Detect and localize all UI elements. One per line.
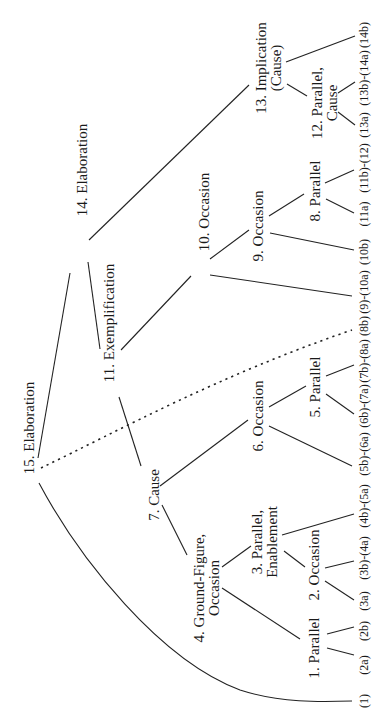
node-13-implication-cause: 13. Implication (Cause) <box>253 22 285 114</box>
leaf-2b: (2b) <box>357 621 371 641</box>
svg-text:(Cause): (Cause) <box>268 45 285 92</box>
edge-2-leaf-3a <box>325 581 354 600</box>
discourse-tree-diagram: 15. Elaboration 14. Elaboration 11. Exem… <box>0 0 391 718</box>
leaf-7b-8a: (7b)-(8a) <box>357 339 371 382</box>
edge-9-8 <box>269 194 304 216</box>
edge-5-leaf-7b-8a <box>326 365 354 376</box>
leaf-2a: (2a) <box>357 655 371 674</box>
node-10-occasion: 10. Occasion <box>196 172 212 251</box>
leaf-4b-5a: (4b)-(5a) <box>357 484 371 527</box>
leaf-8b: (8b) <box>357 316 371 336</box>
edge-5-leaf-6b-7a <box>326 394 354 414</box>
edge-14-13 <box>89 85 249 240</box>
edge-10-leaf-9-10a <box>210 275 352 296</box>
node-14-elaboration: 14. Elaboration <box>74 123 90 216</box>
edge-7-4 <box>162 505 187 555</box>
leaf-5b-6a: (5b)-(6a) <box>357 432 371 475</box>
edge-3-2 <box>284 551 305 567</box>
edge-11-7 <box>119 397 141 466</box>
edge-12-leaf-13b-14a <box>338 82 355 93</box>
edge-4-3 <box>222 546 251 567</box>
edge-6-leaf-5b-6a <box>269 426 352 466</box>
leaf-3a: (3a) <box>357 591 371 610</box>
node-11-exemplification: 11. Exemplification <box>101 263 117 382</box>
edge-1-leaf-2a <box>327 648 354 655</box>
leaf-labels: (1) (2a) (2b) (3a) (3b)-(4a) (4b)-(5a) (… <box>357 22 371 708</box>
svg-text:Enablement: Enablement <box>264 505 280 577</box>
leaf-11b-12: (11b)-(12) <box>357 143 371 193</box>
node-12-parallel-cause: 12. Parallel, Cause <box>309 67 340 139</box>
edge-15-leaf-8b-dotted <box>41 330 352 468</box>
node-labels: 15. Elaboration 14. Elaboration 11. Exem… <box>21 22 340 679</box>
leaf-6b-7a: (6b)-(7a) <box>357 384 371 427</box>
edge-7-6 <box>160 420 248 486</box>
node-8-parallel: 8. Parallel <box>307 161 323 222</box>
node-15-elaboration: 15. Elaboration <box>21 381 37 474</box>
tree-canvas: 15. Elaboration 14. Elaboration 11. Exem… <box>0 0 391 718</box>
edge-12-leaf-13a <box>338 112 355 125</box>
edge-15-14 <box>38 273 70 458</box>
leaf-10b: (10b) <box>357 239 371 265</box>
leaf-14b: (14b) <box>357 22 371 48</box>
svg-text:13. Implication: 13. Implication <box>253 22 269 114</box>
svg-text:3. Parallel,: 3. Parallel, <box>249 510 265 575</box>
node-5-parallel: 5. Parallel <box>307 357 323 418</box>
node-2-occasion: 2. Occasion <box>306 529 322 600</box>
svg-text:12. Parallel,: 12. Parallel, <box>309 67 325 139</box>
leaf-9-10a: (9)-(10a) <box>357 270 371 313</box>
svg-text:4. Ground-Figure,: 4. Ground-Figure, <box>191 534 207 643</box>
edge-8-leaf-11a <box>326 199 354 213</box>
node-1-parallel: 1. Parallel <box>306 618 322 679</box>
node-9-occasion: 9. Occasion <box>250 190 266 261</box>
node-6-occasion: 6. Occasion <box>250 380 266 451</box>
svg-text:Cause: Cause <box>324 84 340 121</box>
leaf-13a: (13a) <box>357 112 371 137</box>
leaf-3b-4a: (3b)-(4a) <box>357 536 371 579</box>
edge-2-leaf-3b-4a <box>325 561 354 568</box>
edge-10-9 <box>210 230 249 259</box>
edge-9-leaf-10b <box>270 233 354 250</box>
svg-text:Occasion: Occasion <box>206 560 222 616</box>
leaf-1: (1) <box>357 694 371 708</box>
edge-13-leaf-14b <box>286 36 355 62</box>
edge-8-leaf-11b-12 <box>325 170 354 183</box>
edge-6-5 <box>269 386 306 407</box>
edge-14-11 <box>88 262 100 349</box>
edge-11-10 <box>121 276 191 350</box>
edge-4-1 <box>222 588 300 639</box>
leaf-11a: (11a) <box>357 202 371 227</box>
edge-13-12 <box>287 84 307 96</box>
node-4-ground-figure-occasion: 4. Ground-Figure, Occasion <box>191 534 222 643</box>
edge-1-leaf-2b <box>327 627 354 634</box>
node-3-parallel-enablement: 3. Parallel, Enablement <box>249 505 280 577</box>
leaf-13b-14a: (13b)-(14a) <box>357 50 371 105</box>
node-7-cause: 7. Cause <box>146 469 162 521</box>
